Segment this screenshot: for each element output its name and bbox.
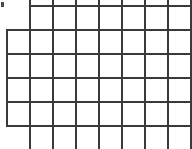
grid-line-horizontal-4 — [6, 101, 192, 103]
grid-line-horizontal-5 — [6, 125, 192, 127]
grid-line-horizontal-3 — [6, 77, 192, 79]
grid-line-horizontal-0 — [29, 5, 192, 7]
grid-canvas — [0, 0, 192, 149]
top-left-mark — [1, 2, 4, 7]
grid-line-horizontal-1 — [6, 29, 192, 31]
grid-line-horizontal-2 — [6, 53, 192, 55]
